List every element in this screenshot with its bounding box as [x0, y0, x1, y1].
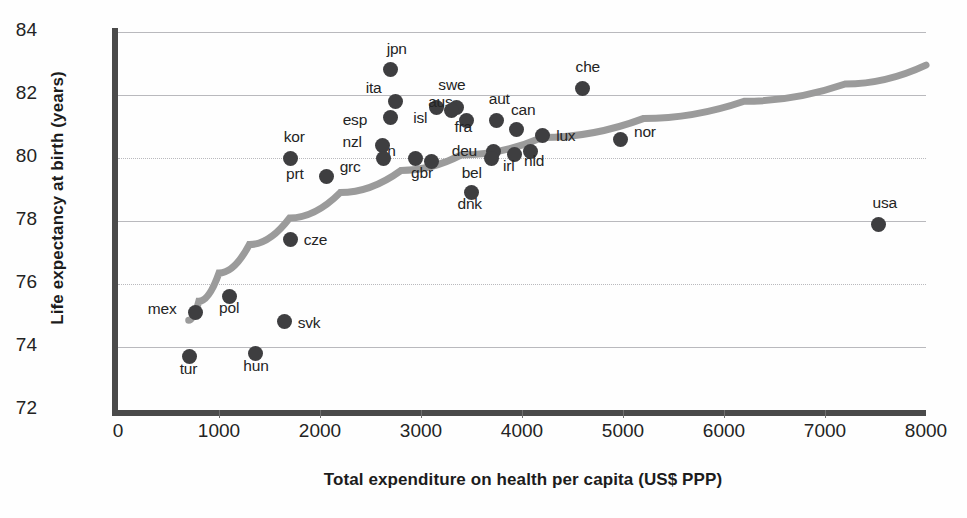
point-label-aut: aut — [489, 90, 510, 108]
x-tick-mark-3000 — [421, 410, 422, 418]
x-tick-label-8000: 8000 — [886, 420, 966, 442]
point-label-kor: kor — [284, 128, 305, 146]
point-label-gbr: gbr — [411, 164, 433, 182]
point-label-tur: tur — [180, 360, 198, 378]
data-point-aut[interactable] — [489, 113, 504, 128]
y-tick-label-80: 80 — [0, 145, 37, 167]
data-point-usa[interactable] — [871, 217, 886, 232]
x-tick-label-7000: 7000 — [785, 420, 865, 442]
x-axis-title: Total expenditure on health per capita (… — [118, 470, 928, 490]
x-tick-label-3000: 3000 — [381, 420, 461, 442]
x-tick-mark-2000 — [320, 410, 321, 418]
point-label-pol: pol — [219, 299, 239, 317]
point-label-che: che — [576, 58, 600, 76]
x-tick-label-2000: 2000 — [280, 420, 360, 442]
y-tick-label-76: 76 — [0, 271, 37, 293]
point-label-esp: esp — [343, 111, 367, 129]
point-label-can: can — [511, 101, 535, 119]
point-label-isl: isl — [413, 109, 427, 127]
plot-area: jpnitaespaussweislfraautchecannorluxnldi… — [118, 32, 926, 410]
point-label-hun: hun — [243, 357, 268, 375]
x-tick-mark-6000 — [724, 410, 725, 418]
x-tick-mark-7000 — [825, 410, 826, 418]
point-label-cze: cze — [304, 231, 328, 249]
x-tick-label-4000: 4000 — [482, 420, 562, 442]
point-label-nor: nor — [634, 123, 656, 141]
point-label-deu: deu — [452, 142, 477, 160]
y-tick-label-72: 72 — [0, 397, 37, 419]
data-point-nor[interactable] — [613, 132, 628, 147]
y-axis-title: Life expectancy at birth (years) — [48, 0, 68, 398]
point-label-mex: mex — [148, 300, 177, 318]
data-point-esp[interactable] — [383, 110, 398, 125]
x-axis-line — [112, 410, 926, 416]
y-tick-label-74: 74 — [0, 334, 37, 356]
x-tick-label-6000: 6000 — [684, 420, 764, 442]
data-point-prt[interactable] — [319, 169, 334, 184]
point-label-grc: grc — [340, 158, 361, 176]
point-label-ita: ita — [366, 79, 382, 97]
point-label-svk: svk — [298, 314, 321, 332]
point-label-fra: fra — [454, 118, 472, 136]
data-point-bel[interactable] — [484, 151, 499, 166]
data-point-isl[interactable] — [444, 103, 459, 118]
point-label-lux: lux — [556, 127, 575, 145]
data-point-grc[interactable] — [376, 151, 391, 166]
y-tick-label-82: 82 — [0, 82, 37, 104]
point-label-bel: bel — [462, 164, 482, 182]
trend-line — [118, 32, 926, 410]
point-label-nld: nld — [524, 152, 544, 170]
point-label-usa: usa — [873, 194, 897, 212]
x-tick-mark-1000 — [219, 410, 220, 418]
point-label-dnk: dnk — [458, 195, 482, 213]
point-label-nzl: nzl — [343, 133, 362, 151]
x-tick-label-5000: 5000 — [583, 420, 663, 442]
x-tick-label-0: 0 — [78, 420, 158, 442]
point-label-swe: swe — [438, 76, 465, 94]
y-tick-label-84: 84 — [0, 19, 37, 41]
point-label-irl: irl — [503, 157, 514, 175]
x-tick-label-1000: 1000 — [179, 420, 259, 442]
data-point-kor[interactable] — [283, 151, 298, 166]
point-label-prt: prt — [286, 165, 304, 183]
data-point-ita[interactable] — [388, 94, 403, 109]
x-tick-mark-5000 — [623, 410, 624, 418]
scatter-chart: Life expectancy at birth (years) Total e… — [0, 0, 967, 518]
point-label-jpn: jpn — [387, 40, 407, 58]
y-tick-label-78: 78 — [0, 208, 37, 230]
x-tick-mark-4000 — [522, 410, 523, 418]
